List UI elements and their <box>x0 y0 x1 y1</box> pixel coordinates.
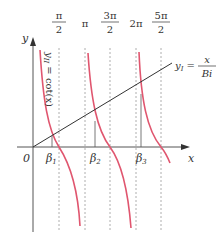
tick-3pi-over-2: 3π 2 <box>101 10 119 35</box>
svg-text:Bi: Bi <box>201 68 213 79</box>
beta1-label: β1 <box>45 152 57 166</box>
dashed-guides <box>59 48 161 232</box>
cot-roots-diagram: π 2 π 3π 2 2π 5π 2 y x 0 β1 β2 β3 yII = … <box>0 0 220 245</box>
tick-5pi-over-2: 5π 2 <box>152 10 170 35</box>
top-tick-labels: π 2 π 3π 2 2π 5π 2 <box>52 10 170 35</box>
cot-branch-2 <box>88 53 131 228</box>
root-markers <box>52 94 141 147</box>
tick-pi: π <box>82 18 89 29</box>
svg-text:2: 2 <box>56 24 62 35</box>
cot-branch-3 <box>139 52 170 163</box>
tick-2pi: 2π <box>130 18 143 29</box>
svg-text:yI =: yI = <box>174 60 195 73</box>
origin-label: 0 <box>23 152 30 165</box>
cot-curves <box>40 50 170 228</box>
y-axis-arrow-icon <box>30 37 36 46</box>
y-axis-label: y <box>21 32 29 45</box>
svg-text:3π: 3π <box>104 10 117 21</box>
svg-text:x: x <box>204 54 210 65</box>
x-axis-arrow-icon <box>181 144 190 150</box>
line-label: yI = x Bi <box>174 54 216 79</box>
svg-text:5π: 5π <box>155 10 168 21</box>
beta3-label: β3 <box>135 152 147 166</box>
tick-pi-over-2: π 2 <box>52 10 66 35</box>
x-axis-label: x <box>188 152 195 165</box>
beta2-label: β2 <box>89 152 101 166</box>
svg-text:2: 2 <box>107 24 113 35</box>
svg-text:2: 2 <box>158 24 164 35</box>
svg-text:π: π <box>56 10 63 21</box>
